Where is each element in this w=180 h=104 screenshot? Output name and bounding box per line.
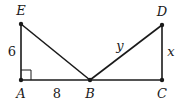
label-length-BD: y	[115, 38, 124, 53]
label-E: E	[15, 3, 26, 18]
vertices	[19, 22, 164, 82]
label-A: A	[15, 86, 25, 101]
label-B: B	[84, 86, 95, 101]
segments	[21, 24, 162, 80]
point-C	[160, 78, 164, 82]
label-C: C	[157, 86, 167, 101]
label-length-EA: 6	[8, 44, 16, 59]
segment-BD	[90, 25, 162, 80]
point-D	[160, 23, 164, 27]
point-B	[88, 78, 92, 82]
geometry-diagram: E A B C D 6 8 y x	[0, 0, 180, 104]
label-D: D	[156, 4, 168, 19]
point-E	[19, 22, 23, 26]
label-length-DC: x	[167, 44, 175, 59]
point-A	[19, 78, 23, 82]
label-length-AB: 8	[53, 86, 61, 101]
